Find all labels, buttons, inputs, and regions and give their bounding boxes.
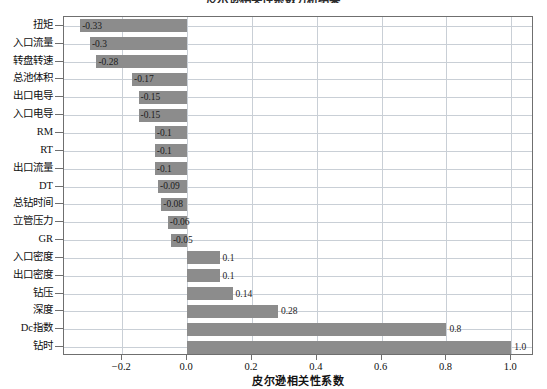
x-tick-label: 0.2 xyxy=(244,361,257,372)
y-tick-label: RM xyxy=(37,125,53,139)
x-tick xyxy=(121,355,122,360)
y-tick-label: 出口电导 xyxy=(13,89,53,103)
x-tick xyxy=(445,355,446,360)
y-axis: 扭矩入口流量转盘转速总池体积出口电导入口电导RMRT出口流量DT总钻时间立管压力… xyxy=(0,16,63,355)
chart-figure: 皮尔逊相关性系数分析结果 扭矩入口流量转盘转速总池体积出口电导入口电导RMRT出… xyxy=(0,0,547,389)
bar-value-label: 1.0 xyxy=(514,340,526,354)
bar-row: 0.1 xyxy=(64,249,532,267)
bar-value-label: -0.1 xyxy=(157,162,172,176)
y-tick xyxy=(55,293,63,294)
x-tick xyxy=(316,355,317,360)
bar-row: 1.0 xyxy=(64,338,532,356)
bar-row: -0.06 xyxy=(64,213,532,231)
y-tick xyxy=(55,346,63,347)
bar-row: 0.28 xyxy=(64,302,532,320)
bar-value-label: -0.08 xyxy=(163,197,183,211)
y-tick-label: 出口密度 xyxy=(13,268,53,282)
bar-value-label: -0.3 xyxy=(92,37,107,51)
bar-value-label: -0.28 xyxy=(98,55,118,69)
bar[interactable] xyxy=(187,287,232,300)
y-tick xyxy=(55,114,63,115)
bar-row: -0.28 xyxy=(64,53,532,71)
y-tick xyxy=(55,310,63,311)
bar-row: -0.1 xyxy=(64,160,532,178)
x-axis-label: 皮尔逊相关性系数 xyxy=(63,372,533,388)
bar[interactable] xyxy=(187,323,446,336)
bar-row: -0.33 xyxy=(64,17,532,35)
bar-value-label: 0.1 xyxy=(223,269,235,283)
y-tick xyxy=(55,328,63,329)
y-tick-label: 钻压 xyxy=(33,286,53,300)
bar-value-label: 0.14 xyxy=(236,287,253,301)
bar-value-label: -0.15 xyxy=(141,108,161,122)
y-tick xyxy=(55,221,63,222)
y-tick xyxy=(55,239,63,240)
y-tick-label: GR xyxy=(38,232,53,246)
y-tick xyxy=(55,78,63,79)
y-tick-label: 入口电导 xyxy=(13,107,53,121)
bar-value-label: -0.09 xyxy=(160,179,180,193)
x-tick-label: 0.8 xyxy=(439,361,452,372)
y-tick-label: 扭矩 xyxy=(33,18,53,32)
y-tick-label: DT xyxy=(39,179,53,193)
y-tick xyxy=(55,132,63,133)
bar-row: 0.1 xyxy=(64,267,532,285)
y-tick xyxy=(55,25,63,26)
y-tick xyxy=(55,96,63,97)
bar-value-label: 0.28 xyxy=(281,304,298,318)
bar-value-label: -0.1 xyxy=(157,144,172,158)
bar-row: -0.17 xyxy=(64,71,532,89)
bar-value-label: -0.15 xyxy=(141,90,161,104)
bar-value-label: 0.8 xyxy=(449,322,461,336)
bar-row: 0.8 xyxy=(64,320,532,338)
x-tick xyxy=(510,355,511,360)
x-tick xyxy=(381,355,382,360)
x-tick-label: 0.0 xyxy=(180,361,193,372)
x-tick-label: 0.6 xyxy=(374,361,387,372)
x-tick-label: −0.2 xyxy=(112,361,131,372)
y-tick xyxy=(55,203,63,204)
y-tick-label: 总钻时间 xyxy=(13,196,53,210)
y-tick xyxy=(55,186,63,187)
bar[interactable] xyxy=(187,251,219,264)
bar-row: -0.1 xyxy=(64,142,532,160)
y-tick xyxy=(55,61,63,62)
x-tick xyxy=(186,355,187,360)
y-tick xyxy=(55,43,63,44)
y-tick-label: 总池体积 xyxy=(13,71,53,85)
y-tick-label: 入口密度 xyxy=(13,250,53,264)
x-tick-label: 0.4 xyxy=(309,361,322,372)
bar-value-label: -0.05 xyxy=(173,233,193,247)
bar[interactable] xyxy=(187,269,219,282)
bar-row: 0.14 xyxy=(64,285,532,303)
y-tick-label: 立管压力 xyxy=(13,214,53,228)
x-tick xyxy=(251,355,252,360)
bar-value-label: -0.17 xyxy=(134,72,154,86)
chart-title: 皮尔逊相关性系数分析结果 xyxy=(0,0,547,3)
y-tick-label: 钻时 xyxy=(33,339,53,353)
y-tick-label: 入口流量 xyxy=(13,36,53,50)
bar-value-label: 0.1 xyxy=(223,251,235,265)
y-tick xyxy=(55,275,63,276)
bar-row: -0.3 xyxy=(64,35,532,53)
y-tick-label: 深度 xyxy=(33,303,53,317)
bar-row: -0.08 xyxy=(64,195,532,213)
y-tick xyxy=(55,257,63,258)
bar-row: -0.1 xyxy=(64,124,532,142)
bar-row: -0.05 xyxy=(64,231,532,249)
bar-value-label: -0.1 xyxy=(157,126,172,140)
x-tick-label: 1.0 xyxy=(504,361,517,372)
bar-row: -0.15 xyxy=(64,88,532,106)
bar-value-label: -0.33 xyxy=(82,19,102,33)
y-tick-label: 出口流量 xyxy=(13,161,53,175)
plot-area: -0.33-0.3-0.28-0.17-0.15-0.15-0.1-0.1-0.… xyxy=(63,16,533,355)
bar-value-label: -0.06 xyxy=(170,215,190,229)
y-tick-label: 转盘转速 xyxy=(13,54,53,68)
y-tick xyxy=(55,168,63,169)
bar-row: -0.09 xyxy=(64,178,532,196)
bar[interactable] xyxy=(187,341,511,354)
y-tick xyxy=(55,150,63,151)
y-tick-label: Dc指数 xyxy=(21,321,53,335)
bar-row: -0.15 xyxy=(64,106,532,124)
bar[interactable] xyxy=(187,305,278,318)
